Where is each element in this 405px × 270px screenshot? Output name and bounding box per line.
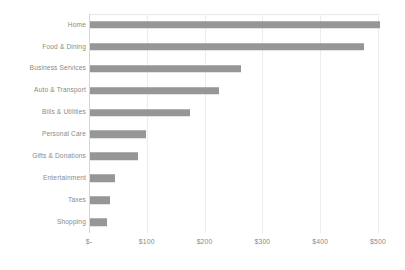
- category-label: Food & Dining: [0, 44, 86, 51]
- bar-row: Business Services: [0, 58, 405, 80]
- category-label: Shopping: [0, 219, 86, 226]
- bar: [90, 21, 380, 29]
- bar: [90, 153, 138, 161]
- bar: [90, 174, 115, 182]
- bar: [90, 196, 110, 204]
- x-tick-label: $100: [139, 239, 155, 246]
- bar-row: Bills & Utilities: [0, 102, 405, 124]
- x-tick-label: $500: [370, 239, 386, 246]
- bar-row: Entertainment: [0, 167, 405, 189]
- category-label: Personal Care: [0, 131, 86, 138]
- x-tick-label: $400: [312, 239, 328, 246]
- bar-row: Auto & Transport: [0, 80, 405, 102]
- category-label: Home: [0, 22, 86, 29]
- x-tick-label: $-: [86, 239, 92, 246]
- bar-row: Shopping: [0, 211, 405, 233]
- category-label: Entertainment: [0, 175, 86, 182]
- bar: [90, 131, 146, 139]
- bar: [90, 218, 107, 226]
- bar: [90, 43, 364, 51]
- bar-row: Food & Dining: [0, 36, 405, 58]
- bar: [90, 65, 241, 73]
- bar-row: Gifts & Donations: [0, 145, 405, 167]
- bar: [90, 87, 219, 95]
- category-label: Business Services: [0, 65, 86, 72]
- category-label: Taxes: [0, 197, 86, 204]
- category-label: Auto & Transport: [0, 87, 86, 94]
- x-tick-label: $200: [197, 239, 213, 246]
- x-tick-label: $300: [254, 239, 270, 246]
- bar-row: Home: [0, 14, 405, 36]
- bars-group: HomeFood & DiningBusiness ServicesAuto &…: [0, 14, 405, 233]
- category-label: Gifts & Donations: [0, 153, 86, 160]
- x-axis-tick-labels: $-$100$200$300$400$500: [0, 239, 405, 253]
- bar-chart: HomeFood & DiningBusiness ServicesAuto &…: [0, 0, 405, 270]
- bar-row: Personal Care: [0, 124, 405, 146]
- bar-row: Taxes: [0, 189, 405, 211]
- category-label: Bills & Utilities: [0, 109, 86, 116]
- bar: [90, 109, 190, 117]
